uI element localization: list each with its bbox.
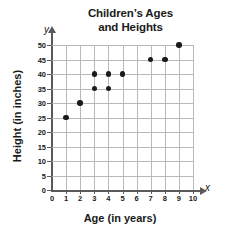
data-point bbox=[92, 86, 98, 92]
gridline-vertical bbox=[94, 45, 95, 190]
x-axis-line bbox=[51, 190, 203, 192]
y-axis-tick-label: 5 bbox=[24, 172, 46, 181]
y-axis-tick-label: 10 bbox=[24, 157, 46, 166]
y-axis-tick-mark bbox=[47, 190, 52, 191]
y-axis-tick-label: 15 bbox=[24, 143, 46, 152]
y-axis-tick-label: 50 bbox=[24, 41, 46, 50]
x-axis-arrow-icon bbox=[200, 187, 207, 195]
y-axis-tick-label: 0 bbox=[24, 186, 46, 195]
y-axis-tick-label: 30 bbox=[24, 99, 46, 108]
data-point bbox=[120, 71, 126, 77]
data-point bbox=[106, 71, 112, 77]
data-point bbox=[162, 57, 168, 63]
y-axis-tick-label: 45 bbox=[24, 56, 46, 65]
chart-title: Children’s Ages and Heights bbox=[48, 6, 213, 34]
x-axis-title: Age (in years) bbox=[40, 212, 200, 224]
data-point bbox=[148, 57, 154, 63]
gridline-vertical bbox=[108, 45, 109, 190]
chart-title-line-2: and Heights bbox=[48, 20, 213, 34]
y-axis-tick-label: 20 bbox=[24, 128, 46, 137]
y-axis-tick-label: 40 bbox=[24, 70, 46, 79]
data-point bbox=[106, 86, 112, 92]
data-point bbox=[63, 115, 69, 121]
gridline-vertical bbox=[80, 45, 81, 190]
y-axis-title: Height (in inches) bbox=[11, 41, 23, 191]
gridline-vertical bbox=[137, 45, 138, 190]
y-axis-tick-label: 25 bbox=[24, 114, 46, 123]
y-axis-tick-label: 35 bbox=[24, 85, 46, 94]
x-axis-tick-label: 10 bbox=[185, 194, 201, 203]
y-axis-arrow-icon bbox=[48, 26, 56, 33]
gridline-vertical bbox=[193, 45, 194, 190]
chart-title-line-1: Children’s Ages bbox=[48, 6, 213, 20]
data-point bbox=[77, 100, 83, 106]
gridline-vertical bbox=[123, 45, 124, 190]
plot-area bbox=[52, 45, 193, 190]
data-point bbox=[176, 42, 182, 48]
gridline-vertical bbox=[165, 45, 166, 190]
gridline-vertical bbox=[179, 45, 180, 190]
gridline-vertical bbox=[151, 45, 152, 190]
data-point bbox=[92, 71, 98, 77]
chart-figure: Children’s Ages and Heights y x 05101520… bbox=[0, 0, 226, 238]
